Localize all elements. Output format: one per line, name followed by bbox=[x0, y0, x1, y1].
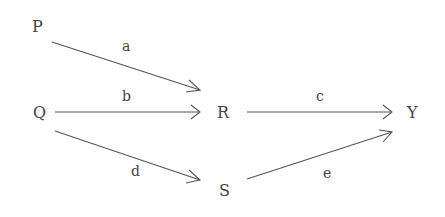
edge-label-a: a bbox=[122, 38, 130, 54]
edge-label-d: d bbox=[131, 163, 140, 179]
node-p: P bbox=[32, 17, 43, 36]
edge-label-c: c bbox=[316, 88, 324, 104]
node-r: R bbox=[217, 103, 230, 122]
path-diagram: a b c d e P Q R S Y bbox=[0, 0, 445, 217]
edge-b: b bbox=[55, 88, 200, 119]
node-s: S bbox=[219, 181, 230, 200]
edge-a: a bbox=[52, 38, 200, 92]
edge-label-e: e bbox=[323, 165, 331, 181]
node-q: Q bbox=[33, 103, 46, 122]
node-y: Y bbox=[406, 103, 418, 122]
edge-d: d bbox=[55, 131, 200, 183]
edge-e: e bbox=[247, 130, 392, 181]
edge-c: c bbox=[247, 88, 392, 119]
edge-label-b: b bbox=[122, 88, 131, 104]
